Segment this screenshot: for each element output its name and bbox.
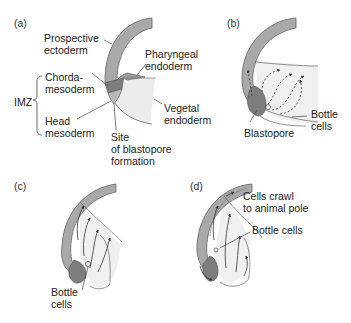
imz-brace: [33, 76, 42, 135]
panel-a-tag: (a): [14, 17, 27, 29]
label-head-mesoderm-line1: Head: [45, 116, 70, 127]
label-imz: IMZ: [14, 97, 32, 108]
panel-d-tag: (d): [190, 180, 203, 192]
label-pharyngeal-endoderm-line2: endoderm: [145, 61, 192, 72]
panel-c-drawing: [61, 184, 122, 290]
panel-b-drawing: [242, 18, 318, 126]
label-head-mesoderm-line2: mesoderm: [45, 128, 95, 139]
label-bottle-cells-c-line1: Bottle: [51, 287, 78, 298]
label-bottle-cells-b-line2: cells: [311, 121, 332, 132]
label-prospective-ectoderm-line2: ectoderm: [44, 45, 88, 56]
label-cells-crawl-line2: to animal pole: [243, 203, 308, 214]
label-vegetal-endoderm-line1: Vegetal: [164, 103, 199, 114]
panel-c-tag: (c): [14, 180, 26, 192]
label-prospective-ectoderm-line1: Prospective: [44, 33, 99, 44]
label-cells-crawl-line1: Cells crawl: [243, 191, 294, 202]
label-chordamesoderm-line1: Chorda-: [45, 72, 83, 83]
label-vegetal-endoderm-line2: endoderm: [164, 115, 211, 126]
label-blastopore-site-line3: formation: [111, 156, 155, 167]
label-blastopore: Blastopore: [244, 128, 294, 139]
panel-b-tag: (b): [227, 17, 240, 29]
label-blastopore-site-line1: Site: [111, 132, 129, 143]
label-pharyngeal-endoderm-line1: Pharyngeal: [145, 49, 198, 60]
label-blastopore-site-line2: of blastopore: [111, 144, 172, 155]
label-bottle-cells-c-line2: cells: [51, 299, 72, 310]
label-chordamesoderm-line2: mesoderm: [45, 84, 95, 95]
label-bottle-cells-b-line1: Bottle: [311, 109, 338, 120]
label-bottle-cells-d: Bottle cells: [252, 225, 303, 236]
